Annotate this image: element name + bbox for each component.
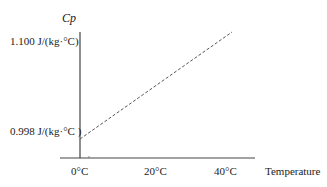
x-axis-label: Temperature (265, 165, 320, 177)
y-tick-top: 1.100 J/(kg·°C) (10, 35, 79, 47)
x-tick-40: 40°C (214, 165, 237, 177)
chart-canvas (0, 0, 327, 187)
x-tick-0: 0°C (71, 165, 88, 177)
x-tick-20: 20°C (144, 165, 167, 177)
y-tick-bottom: 0.998 J/(kg·°C ) (10, 125, 81, 137)
y-axis-label: Cp (62, 11, 76, 26)
cp-dashed-line (80, 32, 232, 139)
origin-dot (88, 156, 89, 157)
